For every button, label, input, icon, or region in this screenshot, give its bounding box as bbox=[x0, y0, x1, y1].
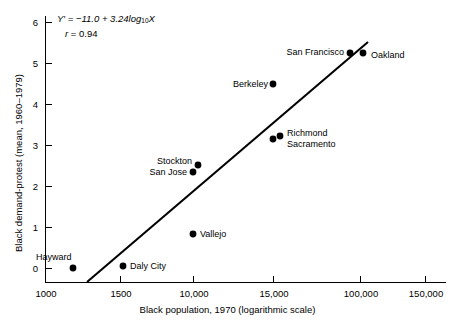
data-point[interactable] bbox=[347, 50, 354, 57]
data-point[interactable] bbox=[70, 265, 77, 272]
correlation-symbol: r bbox=[65, 28, 68, 39]
regression-line bbox=[87, 42, 368, 282]
point-label-daly-city: Daly City bbox=[130, 262, 166, 271]
equation-line: Y′ = −11.0 + 3.24log10X bbox=[57, 12, 155, 27]
y-tick-label-6: 6 bbox=[22, 18, 38, 28]
scatter-plot-figure: Y′ = −11.0 + 3.24log10X r = 0.94 0 1 2 3… bbox=[0, 0, 455, 326]
equation-suffix: X bbox=[149, 13, 155, 24]
y-axis-title: Black demand-protest (mean, 1960–1979) bbox=[14, 74, 24, 252]
x-tick-label-1500: 1500 bbox=[91, 289, 151, 299]
point-label-vallejo: Vallejo bbox=[200, 230, 226, 239]
correlation-line: r = 0.94 bbox=[57, 27, 155, 42]
x-tick-label-10000: 10,000 bbox=[164, 289, 224, 299]
data-point[interactable] bbox=[277, 133, 284, 140]
y-tick-label-0: 0 bbox=[22, 264, 38, 274]
y-tick-label-5: 5 bbox=[22, 59, 38, 69]
y-tick-label-2: 2 bbox=[22, 182, 38, 192]
data-point[interactable] bbox=[270, 136, 277, 143]
y-tick-label-3: 3 bbox=[22, 141, 38, 151]
equation-subscript: 10 bbox=[141, 17, 148, 24]
point-label-san-francisco: San Francisco bbox=[260, 48, 344, 57]
data-point[interactable] bbox=[360, 50, 367, 57]
x-tick-label-15000: 15,000 bbox=[244, 289, 304, 299]
equation-prefix: Y′ = −11.0 + 3.24log bbox=[57, 13, 141, 24]
y-tick-label-1: 1 bbox=[22, 223, 38, 233]
x-axis-title: Black population, 1970 (logarithmic scal… bbox=[0, 305, 455, 315]
y-tick-label-4: 4 bbox=[22, 100, 38, 110]
x-tick-label-100000: 100,000 bbox=[331, 289, 391, 299]
point-label-hayward: Hayward bbox=[36, 253, 72, 262]
point-label-richmond: Richmond bbox=[287, 129, 328, 138]
point-label-oakland: Oakland bbox=[371, 51, 405, 60]
regression-equation-annotation: Y′ = −11.0 + 3.24log10X r = 0.94 bbox=[57, 12, 155, 41]
data-point[interactable] bbox=[120, 263, 127, 270]
point-label-sacramento: Sacramento bbox=[287, 140, 336, 149]
point-label-berkeley: Berkeley bbox=[215, 80, 268, 89]
point-label-san-jose: San Jose bbox=[128, 168, 187, 177]
plot-canvas bbox=[0, 0, 455, 326]
correlation-value: = 0.94 bbox=[71, 28, 98, 39]
data-point[interactable] bbox=[195, 162, 202, 169]
x-tick-label-150000: 150,000 bbox=[396, 289, 455, 299]
point-label-stockton: Stockton bbox=[133, 157, 192, 166]
data-point[interactable] bbox=[190, 169, 197, 176]
data-point[interactable] bbox=[270, 81, 277, 88]
x-tick-label-1000: 1000 bbox=[16, 289, 76, 299]
data-point[interactable] bbox=[190, 231, 197, 238]
